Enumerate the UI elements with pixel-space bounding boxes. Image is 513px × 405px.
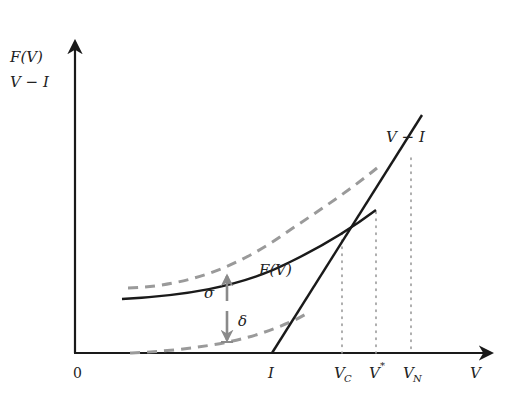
x-tick-vn: V N xyxy=(403,364,423,384)
sigma-label: σ xyxy=(204,284,215,302)
svg-text:C: C xyxy=(344,373,352,384)
upper-dashed-curve xyxy=(128,168,377,288)
svg-text:*: * xyxy=(380,360,385,371)
x-tick-i: I xyxy=(267,364,275,382)
v-minus-i-label: V − I xyxy=(386,128,426,146)
svg-text:N: N xyxy=(412,373,423,384)
x-axis-label: V xyxy=(470,364,483,382)
v-minus-i-line xyxy=(272,115,422,353)
f-v-label: F(V) xyxy=(258,261,292,279)
diagram-canvas: F(V) V − I V − I F(V) σ δ 0 I V C V * V … xyxy=(0,0,513,405)
y-axis-label-fv: F(V) xyxy=(9,48,43,66)
x-tick-vc: V C xyxy=(334,364,352,384)
x-tick-vstar: V * xyxy=(369,360,385,382)
origin-label: 0 xyxy=(73,365,82,381)
y-axis-label-vi: V − I xyxy=(10,73,50,91)
delta-label: δ xyxy=(238,312,247,330)
lower-dashed-curve xyxy=(130,314,306,353)
